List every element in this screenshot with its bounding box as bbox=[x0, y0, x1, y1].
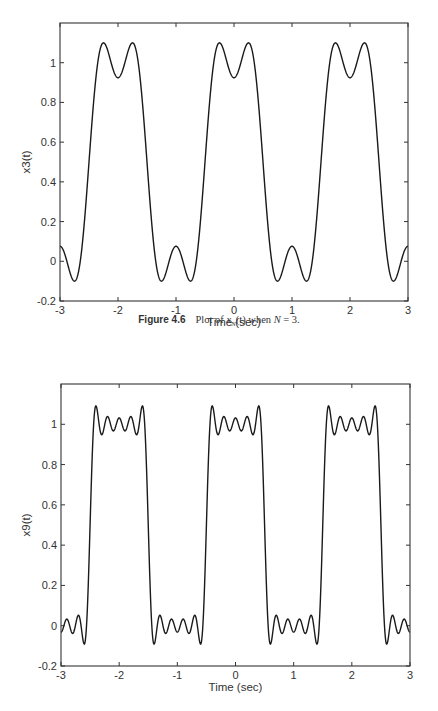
plot-x9: -3-2-10123-0.200.20.40.60.81Time (sec)x9… bbox=[0, 0, 438, 711]
x-tick-label: -1 bbox=[172, 669, 182, 681]
x-axis-label: Time (sec) bbox=[209, 681, 263, 693]
y-axis-label: x9(t) bbox=[20, 513, 32, 536]
y-tick-label: 0.6 bbox=[42, 499, 57, 511]
y-tick-label: -0.2 bbox=[38, 660, 57, 672]
y-tick-label: 0.8 bbox=[42, 459, 57, 471]
axes-box bbox=[61, 384, 410, 666]
figure-x9: -3-2-10123-0.200.20.40.60.81Time (sec)x9… bbox=[0, 0, 438, 711]
y-tick-label: 0.4 bbox=[42, 539, 57, 551]
y-tick-label: 0.2 bbox=[42, 579, 57, 591]
signal-curve bbox=[61, 406, 410, 644]
x-tick-label: -2 bbox=[114, 669, 124, 681]
x-tick-label: 1 bbox=[291, 669, 297, 681]
x-tick-label: -3 bbox=[56, 669, 66, 681]
x-tick-label: 0 bbox=[232, 669, 238, 681]
y-tick-label: 1 bbox=[51, 418, 57, 430]
x-tick-label: 2 bbox=[349, 669, 355, 681]
x-tick-label: 3 bbox=[407, 669, 413, 681]
y-tick-label: 0 bbox=[51, 620, 57, 632]
